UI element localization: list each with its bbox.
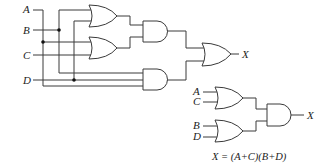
wire-or2-to-and (243, 121, 267, 131)
and-gate-2 (143, 69, 167, 90)
wire-or1-to-and (243, 98, 267, 109)
output-label-x: X (306, 109, 315, 121)
input-label-d: D (22, 74, 31, 86)
junction-dot-a (41, 40, 45, 44)
input-label-a: A (22, 3, 30, 15)
junction-dot-d (72, 78, 76, 82)
wire-or1-to-and1 (117, 16, 143, 25)
or-gate-2 (215, 120, 243, 142)
or-gate-2 (89, 37, 117, 59)
left-circuit: A B C D X (22, 3, 250, 90)
logic-circuit-diagram: A B C D X (0, 0, 330, 166)
output-label-x: X (241, 48, 250, 60)
input-label-c: C (193, 95, 201, 107)
right-circuit: A C B D X X = (A+C)(B+D) (192, 85, 315, 163)
and-gate-1 (143, 21, 168, 42)
junction-dot-b (57, 28, 61, 32)
wire-and1-to-or3 (167, 31, 205, 48)
boolean-equation: X = (A+C)(B+D) (211, 151, 287, 163)
input-label-c: C (23, 49, 31, 61)
input-label-d: D (192, 130, 201, 142)
or-gate-1 (215, 87, 243, 109)
wire-d-vertical (74, 21, 92, 80)
wire-or2-to-and1 (117, 37, 143, 48)
or-gate-1 (89, 5, 117, 27)
or-gate-3 (202, 43, 231, 66)
input-label-b: B (23, 24, 30, 36)
and-gate (267, 104, 291, 126)
wire-and2-to-or3 (167, 61, 205, 80)
